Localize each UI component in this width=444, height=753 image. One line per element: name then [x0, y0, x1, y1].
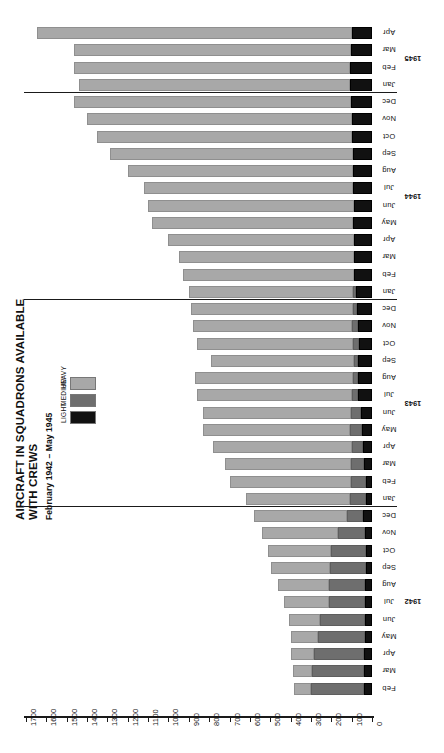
- axis-tick: [270, 716, 271, 722]
- month-label: Jul: [378, 390, 400, 399]
- axis-tick-label: 400: [294, 713, 303, 726]
- bar-segment-light: [366, 545, 372, 557]
- month-label: May: [378, 632, 400, 641]
- month-label: Nov: [378, 321, 400, 330]
- bar-segment-light: [352, 113, 372, 125]
- chart-canvas: 1700160015001400130012001100100090080070…: [0, 0, 444, 753]
- bar-segment-medium: [351, 407, 361, 419]
- bar-segment-medium: [354, 355, 358, 367]
- bar-segment-heavy: [230, 476, 351, 488]
- bar-segment-heavy: [148, 200, 354, 212]
- axis-tick: [291, 716, 292, 722]
- axis-tick-label: 100: [355, 713, 364, 726]
- bar-segment-heavy: [262, 527, 338, 539]
- bar-segment-medium: [318, 631, 365, 643]
- axis-tick-label: 200: [334, 713, 343, 726]
- axis-tick: [67, 716, 68, 722]
- bar-segment-medium: [352, 389, 358, 401]
- axis-tick-label: 500: [273, 713, 282, 726]
- year-separator: [24, 92, 397, 93]
- axis-tick-label: 1300: [110, 709, 119, 727]
- axis-tick: [46, 716, 47, 722]
- bar-segment-medium: [350, 493, 366, 505]
- bar-segment-heavy: [294, 683, 311, 695]
- axis-tick: [209, 716, 210, 722]
- bar-segment-medium: [329, 579, 365, 591]
- bar-segment-light: [353, 217, 372, 229]
- year-label: 1945: [401, 54, 425, 63]
- bar-segment-heavy: [183, 269, 354, 281]
- bar-segment-medium: [352, 320, 358, 332]
- bar-segment-heavy: [128, 165, 353, 177]
- axis-tick-label: 1700: [29, 709, 38, 727]
- legend-swatch: [70, 377, 96, 390]
- month-label: Dec: [378, 304, 400, 313]
- axis-tick-label: 900: [192, 713, 201, 726]
- month-label: Oct: [378, 339, 400, 348]
- bar-segment-heavy: [289, 614, 321, 626]
- month-label: Jun: [378, 615, 400, 624]
- month-label: Apr: [378, 442, 400, 451]
- axis-tick-label: 700: [233, 713, 242, 726]
- axis-tick: [331, 716, 332, 722]
- bar-segment-medium: [314, 648, 364, 660]
- year-label: 1943: [401, 399, 425, 408]
- bar-segment-medium: [331, 545, 366, 557]
- bar-segment-heavy: [74, 62, 350, 74]
- bar-segment-heavy: [110, 148, 352, 160]
- year-label: 1944: [401, 192, 425, 201]
- bar-segment-heavy: [291, 631, 318, 643]
- bar-segment-heavy: [195, 372, 353, 384]
- month-label: May: [378, 425, 400, 434]
- bar-segment-light: [353, 165, 372, 177]
- bar-segment-heavy: [168, 234, 353, 246]
- bar-segment-heavy: [179, 251, 354, 263]
- bar-segment-medium: [330, 562, 366, 574]
- bar-segment-medium: [353, 372, 358, 384]
- bar-segment-light: [362, 424, 372, 436]
- month-label: Sep: [378, 356, 400, 365]
- bar-segment-heavy: [278, 579, 329, 591]
- bar-segment-medium: [351, 476, 366, 488]
- bar-segment-heavy: [271, 562, 330, 574]
- axis-tick: [311, 716, 312, 722]
- legend-swatch: [70, 394, 96, 407]
- bar-segment-heavy: [189, 286, 353, 298]
- month-label: Jan: [378, 287, 400, 296]
- bar-segment-light: [351, 96, 372, 108]
- bar-segment-heavy: [293, 665, 312, 677]
- axis-tick-label: 1100: [151, 709, 160, 726]
- bar-segment-heavy: [193, 320, 352, 332]
- bar-segment-heavy: [284, 596, 329, 608]
- axis-tick: [372, 716, 373, 722]
- bar-segment-heavy: [197, 338, 353, 350]
- bar-segment-heavy: [203, 407, 351, 419]
- month-label: Sep: [378, 563, 400, 572]
- bar-segment-medium: [353, 303, 357, 315]
- bar-segment-light: [366, 493, 372, 505]
- bar-segment-light: [352, 27, 372, 39]
- month-label: Aug: [378, 373, 400, 382]
- axis-tick-label: 600: [253, 713, 262, 726]
- bar-segment-light: [358, 372, 372, 384]
- bar-segment-medium: [353, 286, 356, 298]
- month-label: Jul: [378, 597, 400, 606]
- bar-segment-heavy: [203, 424, 350, 436]
- bar-segment-light: [358, 389, 372, 401]
- bar-segment-medium: [352, 441, 363, 453]
- bar-segment-light: [353, 148, 372, 160]
- month-label: Sep: [378, 149, 400, 158]
- bar-segment-light: [353, 182, 372, 194]
- bar-segment-light: [361, 407, 372, 419]
- bar-segment-light: [363, 510, 372, 522]
- bar-segment-light: [364, 683, 372, 695]
- bar-segment-light: [365, 527, 372, 539]
- axis-tick: [128, 716, 129, 722]
- bar-segment-heavy: [268, 545, 331, 557]
- bar-segment-medium: [329, 596, 365, 608]
- bar-segment-light: [359, 338, 372, 350]
- bar-segment-heavy: [191, 303, 353, 315]
- axis-tick: [168, 716, 169, 722]
- month-label: Feb: [378, 270, 400, 279]
- bar-segment-heavy: [144, 182, 353, 194]
